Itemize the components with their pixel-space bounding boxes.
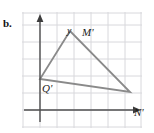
coordinate-plane: M' Q' N' x y (22, 12, 142, 128)
vertex-label-m-prime: M' (82, 26, 94, 38)
figure-container: b. (0, 0, 154, 133)
vertex-label-q-prime: Q' (42, 82, 52, 94)
vertex-label-n-prime: N' (134, 106, 144, 118)
y-axis-label: y (67, 25, 71, 36)
part-label: b. (3, 17, 12, 29)
